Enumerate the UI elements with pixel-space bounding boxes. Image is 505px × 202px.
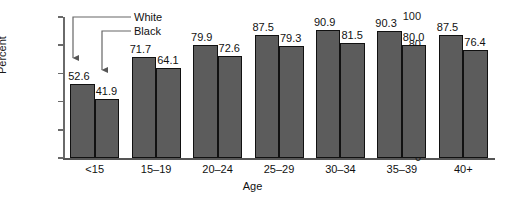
bar-value-label: 79.9 bbox=[191, 32, 212, 43]
x-tick-label: 35–39 bbox=[372, 164, 432, 175]
bar-value-label: 87.5 bbox=[437, 22, 458, 33]
y-tick bbox=[58, 157, 63, 159]
bar-value-label: 90.9 bbox=[314, 17, 335, 28]
bar-value-label: 41.9 bbox=[96, 86, 117, 97]
bar bbox=[340, 43, 365, 158]
x-tick-label: 40+ bbox=[433, 164, 493, 175]
x-tick-label: <15 bbox=[65, 164, 125, 175]
bar-value-label: 71.7 bbox=[130, 44, 151, 55]
bar bbox=[70, 84, 95, 158]
bar bbox=[193, 45, 218, 158]
bar bbox=[377, 31, 402, 158]
bar bbox=[95, 99, 120, 158]
bar-value-label: 79.3 bbox=[280, 33, 301, 44]
x-tick-label: 20–24 bbox=[188, 164, 248, 175]
black-annotation-label: Black bbox=[134, 26, 161, 37]
bar-value-label: 87.5 bbox=[253, 22, 274, 33]
bar bbox=[402, 45, 427, 158]
x-axis-line bbox=[63, 158, 495, 160]
bar-value-label: 81.5 bbox=[341, 30, 362, 41]
y-tick bbox=[58, 129, 63, 131]
x-tick-label: 30–34 bbox=[310, 164, 370, 175]
bar bbox=[132, 57, 157, 158]
bar bbox=[279, 46, 304, 158]
y-tick bbox=[58, 16, 63, 18]
bar bbox=[316, 30, 341, 158]
y-tick bbox=[58, 44, 63, 46]
bar bbox=[463, 50, 488, 158]
y-tick bbox=[58, 73, 63, 75]
bar bbox=[439, 35, 464, 158]
bar-value-label: 72.6 bbox=[219, 43, 240, 54]
y-axis-title: Percent bbox=[0, 36, 8, 74]
x-axis-title: Age bbox=[0, 180, 505, 192]
bar-value-label: 64.1 bbox=[157, 55, 178, 66]
white-annotation-label: White bbox=[134, 12, 162, 23]
bar-chart: Percent 020406080100 52.641.971.764.179.… bbox=[0, 0, 505, 202]
bar bbox=[218, 56, 243, 158]
y-tick-label: 100 bbox=[395, 11, 421, 22]
x-tick-label: 25–29 bbox=[249, 164, 309, 175]
bar-value-label: 52.6 bbox=[68, 71, 89, 82]
plot-area: 020406080100 52.641.971.764.179.972.687.… bbox=[63, 17, 493, 158]
bar-value-label: 90.3 bbox=[375, 18, 396, 29]
x-tick-label: 15–19 bbox=[126, 164, 186, 175]
y-tick bbox=[58, 101, 63, 103]
bar-value-label: 76.4 bbox=[464, 37, 485, 48]
bar bbox=[156, 68, 181, 158]
bar bbox=[255, 35, 280, 158]
bar-value-label: 80.0 bbox=[403, 32, 424, 43]
